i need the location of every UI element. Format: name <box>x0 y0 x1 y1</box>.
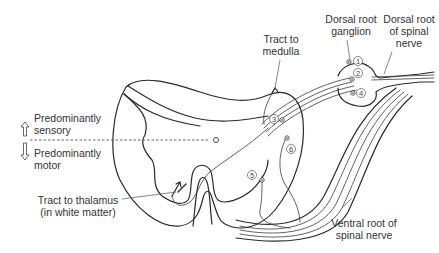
svg-text:6: 6 <box>289 145 293 154</box>
label-line: motor <box>34 159 101 171</box>
svg-text:2: 2 <box>356 69 360 78</box>
spinal-cord-outline <box>113 80 304 228</box>
motor-axon <box>260 176 290 228</box>
dorsal-root-ganglion <box>338 63 434 106</box>
label-line: sensory <box>34 124 101 136</box>
tract-to-thalamus-arrow <box>172 182 181 196</box>
label-dorsal-root-of-spinal-nerve: Dorsal root of spinal nerve <box>380 13 438 49</box>
leader-tract-to-medulla <box>275 60 280 88</box>
label-line: Dorsal root <box>318 13 384 25</box>
leader-dorsal-root-ganglion <box>347 40 350 60</box>
svg-text:3: 3 <box>272 115 276 124</box>
label-tract-to-thalamus: Tract to thalamus (in white matter) <box>32 194 124 218</box>
svg-text:5: 5 <box>250 171 254 180</box>
svg-text:4: 4 <box>359 89 363 98</box>
down-arrow-icon <box>21 143 29 160</box>
central-canal <box>214 138 219 143</box>
label-predominantly-motor: Predominantly motor <box>34 147 101 171</box>
label-line: Predominantly <box>34 112 101 124</box>
tract-to-thalamus-arrow-2 <box>178 184 186 192</box>
label-line: nerve <box>380 37 438 49</box>
svg-text:1: 1 <box>356 57 360 66</box>
up-arrow-icon <box>21 122 29 136</box>
neuron-marker-1: 1 <box>347 57 363 66</box>
label-predominantly-sensory: Predominantly sensory <box>34 112 101 136</box>
label-line: Dorsal root <box>380 13 438 25</box>
label-line: Tract to <box>252 33 310 45</box>
label-line: (in white matter) <box>32 206 124 218</box>
label-ventral-root-of-spinal-nerve: Ventral root of spinal nerve <box>322 217 406 241</box>
neuron-marker-6: 6 <box>285 136 296 154</box>
label-line: Ventral root of <box>322 217 406 229</box>
tract-to-thalamus-fiber <box>172 128 268 205</box>
leader-tract-to-thalamus <box>122 192 176 199</box>
dorsal-horn-line-lower <box>124 94 200 126</box>
label-line: Predominantly <box>34 147 101 159</box>
label-line: medulla <box>252 45 310 57</box>
label-line: ganglion <box>318 25 384 37</box>
dorsal-root-fibers <box>262 78 356 136</box>
leader-dorsal-root-nerve <box>384 52 392 74</box>
grey-matter-outline <box>124 94 268 203</box>
neuron-marker-2: 2 <box>350 69 363 82</box>
label-line: of spinal <box>380 25 438 37</box>
label-line: Tract to thalamus <box>32 194 124 206</box>
neuron-marker-4: 4 <box>351 89 366 98</box>
label-dorsal-root-ganglion: Dorsal root ganglion <box>318 13 384 37</box>
label-tract-to-medulla: Tract to medulla <box>252 33 310 57</box>
label-line: spinal nerve <box>322 229 406 241</box>
neuron-marker-3: 3 <box>270 115 285 124</box>
